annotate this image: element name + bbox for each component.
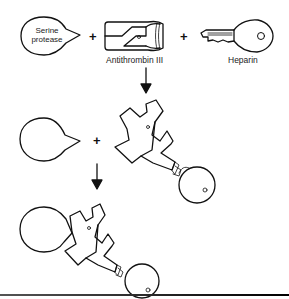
arrow-down-2: [92, 164, 102, 189]
diagram-canvas: [0, 0, 289, 299]
protease-antithrombin-heparin-bound-shape: [20, 204, 159, 298]
arrow-down-1: [141, 68, 151, 93]
antithrombin-label: Antithrombin III: [106, 56, 163, 65]
serine-protease-label-line1: Serine: [25, 26, 69, 35]
serine-protease-label: Serine protease: [25, 26, 69, 44]
plus-sign-3: +: [93, 134, 101, 147]
serine-protease-free-shape: [20, 118, 80, 161]
heparin-key-shape: [201, 20, 273, 52]
serine-protease-label-line2: protease: [25, 35, 69, 44]
bottom-rule: [0, 294, 289, 296]
antithrombin-heparin-complex-shape: [115, 100, 215, 203]
heparin-label: Heparin: [228, 56, 258, 65]
antithrombin-inactive-shape: [105, 22, 163, 51]
plus-sign-2: +: [180, 30, 188, 43]
plus-sign-1: +: [89, 30, 97, 43]
